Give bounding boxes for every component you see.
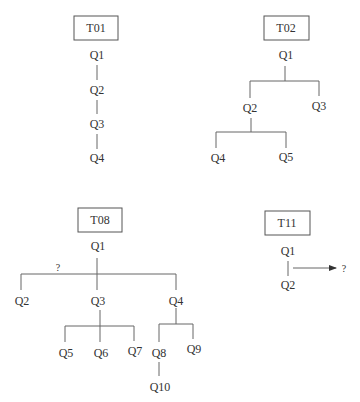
tree-t01: T01 Q1 Q2 Q3 Q4 — [74, 16, 118, 165]
node-q2: Q2 — [243, 101, 258, 115]
node-q4: Q4 — [211, 151, 226, 165]
node-q3: Q3 — [312, 99, 327, 113]
node-q1: Q1 — [90, 48, 105, 62]
node-q9: Q9 — [187, 342, 202, 356]
node-q7: Q7 — [128, 344, 143, 358]
node-q5: Q5 — [279, 150, 294, 164]
arrow-target-question: ? — [342, 263, 347, 274]
node-q4: Q4 — [90, 151, 105, 165]
node-q1: Q1 — [279, 48, 294, 62]
node-q2: Q2 — [15, 294, 30, 308]
tree-title: T11 — [278, 216, 297, 230]
tree-t08: T08 Q1 ? Q2 Q3 Q4 Q5 Q6 Q7 Q8 Q9 Q10 — [15, 208, 202, 394]
node-q2: Q2 — [281, 278, 296, 292]
node-q10: Q10 — [150, 380, 171, 394]
node-q5: Q5 — [59, 346, 74, 360]
tree-title: T01 — [86, 21, 105, 35]
node-q3: Q3 — [90, 117, 105, 131]
tree-t11: T11 Q1 ? Q2 — [265, 211, 347, 292]
node-q1: Q1 — [91, 239, 106, 253]
tree-title: T08 — [90, 213, 109, 227]
tree-t02: T02 Q1 Q2 Q3 Q4 Q5 — [211, 16, 327, 165]
tree-diagrams: T01 Q1 Q2 Q3 Q4 T02 Q1 Q2 Q3 Q4 Q5 T08 Q… — [0, 0, 360, 402]
node-q6: Q6 — [94, 346, 109, 360]
tree-title: T02 — [276, 21, 295, 35]
annotation-question: ? — [56, 262, 61, 273]
node-q4: Q4 — [169, 294, 184, 308]
node-q3: Q3 — [91, 294, 106, 308]
node-q1: Q1 — [281, 244, 296, 258]
node-q2: Q2 — [90, 83, 105, 97]
node-q8: Q8 — [152, 346, 167, 360]
